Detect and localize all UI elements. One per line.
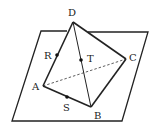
point-T xyxy=(79,58,83,62)
edge-DB xyxy=(73,22,91,107)
edge-AC-hidden xyxy=(43,59,126,86)
tetrahedron-diagram: D R T C A S B xyxy=(0,0,156,130)
label-S: S xyxy=(63,102,70,113)
label-A: A xyxy=(31,81,40,92)
plane xyxy=(12,31,148,121)
edge-BC xyxy=(91,59,126,107)
label-T: T xyxy=(87,53,94,64)
plane-edge-left-top xyxy=(12,31,148,121)
edge-DC xyxy=(73,22,126,59)
label-C: C xyxy=(129,52,137,63)
tetrahedron xyxy=(43,22,126,107)
label-B: B xyxy=(94,110,101,121)
label-D: D xyxy=(68,7,76,18)
point-R xyxy=(55,53,59,57)
diagram-canvas: D R T C A S B xyxy=(0,0,156,130)
label-R: R xyxy=(44,50,52,61)
point-S xyxy=(65,95,69,99)
